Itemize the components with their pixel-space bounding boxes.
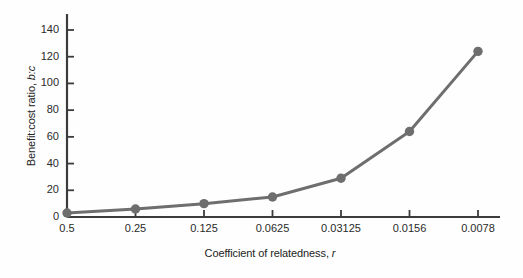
x-axis-tick-label: 0.25 (106, 223, 166, 234)
x-axis-tick-label: 0.0078 (448, 223, 508, 234)
y-axis-title-text: Benefit:cost ratio, (25, 80, 37, 166)
series-line (67, 51, 478, 213)
data-point-marker (131, 204, 140, 213)
x-axis-tick-label: 0.125 (174, 223, 234, 234)
data-point-marker (62, 208, 71, 217)
series-markers (62, 47, 482, 218)
data-point-marker (199, 199, 208, 208)
data-point-marker (473, 47, 482, 56)
x-axis-title: Coefficient of relatedness, r (60, 247, 480, 259)
data-point-marker (405, 127, 414, 136)
x-axis-tick-label: 0.03125 (311, 223, 371, 234)
x-axis-title-text: Coefficient of relatedness, (205, 247, 332, 259)
data-point-marker (336, 174, 345, 183)
chart-figure: 020406080100120140 0.50.250.1250.06250.0… (0, 0, 523, 278)
x-axis-tick-label: 0.0156 (380, 223, 440, 234)
axis-lines (67, 14, 500, 217)
y-axis-title: Benefit:cost ratio, b:c (25, 16, 37, 216)
x-axis-tick-label: 0.0625 (243, 223, 303, 234)
x-axis-title-symbol: r (332, 247, 336, 259)
chart-plot-area (0, 0, 523, 278)
data-point-marker (268, 192, 277, 201)
x-axis-tick-label: 0.5 (37, 223, 97, 234)
y-axis-title-symbol: b:c (25, 66, 37, 80)
